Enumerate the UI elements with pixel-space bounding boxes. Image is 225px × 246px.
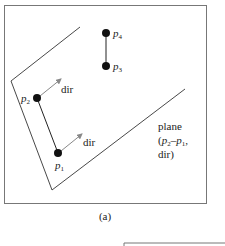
figure-canvas: p4 p3 p2 p1 dir dir plane (p2–p1, dir) (… (0, 0, 225, 246)
point-p1 (54, 149, 62, 157)
point-p3 (102, 62, 110, 70)
dir-arrow-p2 (40, 79, 61, 96)
label-p4: p4 (112, 27, 123, 41)
point-p4 (102, 29, 110, 37)
plane-outline (11, 27, 185, 190)
label-p2: p2 (20, 92, 31, 106)
dir-arrow-p1 (61, 134, 82, 151)
segment-p1-p2 (37, 98, 58, 153)
label-dir-p2: dir (61, 83, 74, 95)
label-plane-dir: dir) (158, 148, 174, 161)
label-p3: p3 (112, 60, 123, 74)
label-p1: p1 (54, 159, 65, 173)
label-plane-vectors: (p2–p1, (158, 134, 188, 148)
figure-caption: (a) (99, 210, 112, 223)
label-dir-p1: dir (83, 136, 96, 148)
label-plane: plane (158, 120, 182, 132)
point-p2 (33, 94, 41, 102)
